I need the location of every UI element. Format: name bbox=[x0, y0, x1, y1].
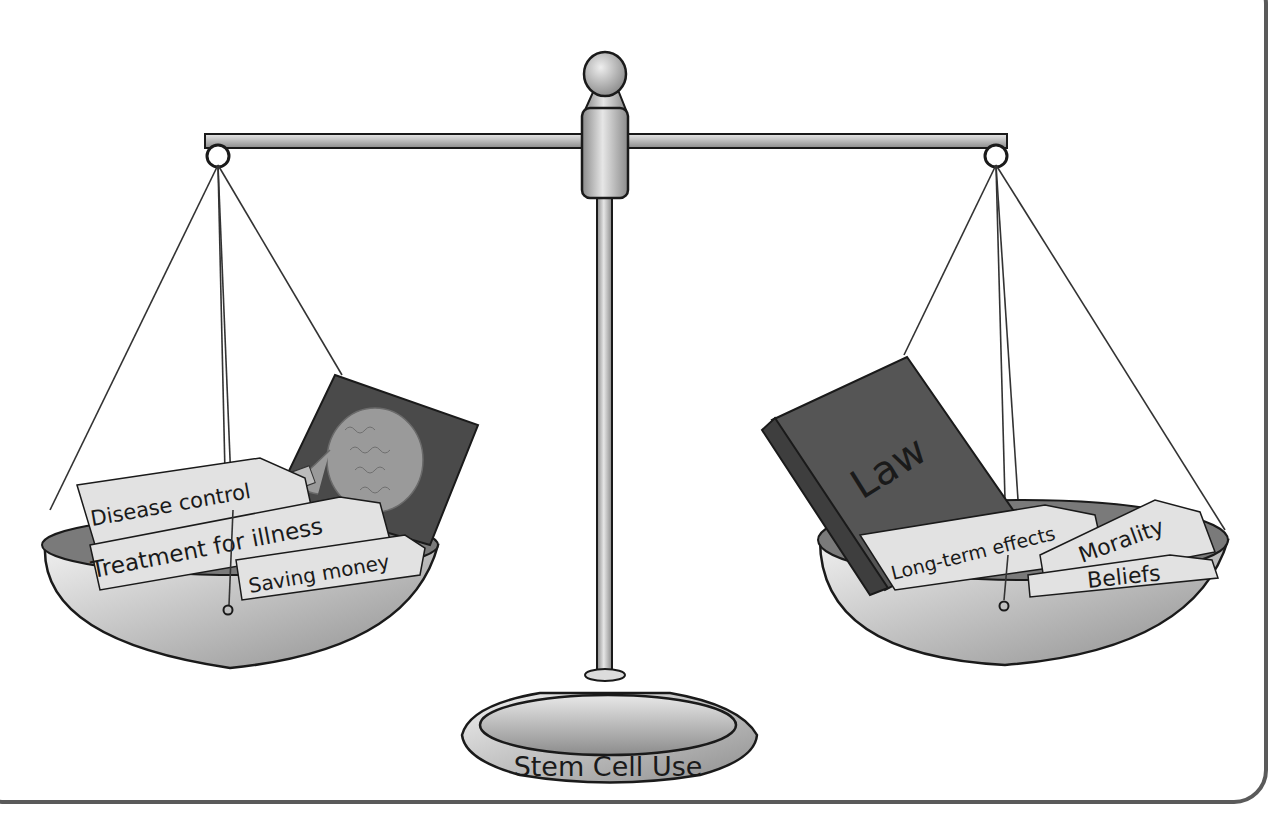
pivot-housing bbox=[582, 108, 628, 198]
right-pan: Law Long-term effects Morality Beliefs bbox=[762, 357, 1228, 665]
left-hook-ring bbox=[207, 145, 229, 167]
right-hook-ring bbox=[985, 145, 1007, 167]
skull-icon bbox=[327, 408, 423, 512]
balance-scale-illustration: Stem Cell Use Disease control bbox=[0, 0, 1277, 814]
finial-knob bbox=[584, 52, 626, 96]
left-pan: Disease control Treatment for illness Sa… bbox=[42, 375, 478, 668]
base-label: Stem Cell Use bbox=[514, 751, 703, 782]
scale-base: Stem Cell Use bbox=[462, 669, 757, 783]
center-post bbox=[582, 52, 628, 675]
